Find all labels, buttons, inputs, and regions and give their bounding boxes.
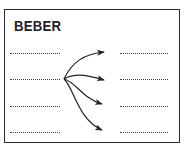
arrow-fan-diagram bbox=[0, 0, 184, 150]
arrow-to-row-4 bbox=[64, 79, 102, 130]
arrow-to-row-3 bbox=[64, 79, 102, 104]
arrow-to-row-2 bbox=[64, 75, 104, 80]
